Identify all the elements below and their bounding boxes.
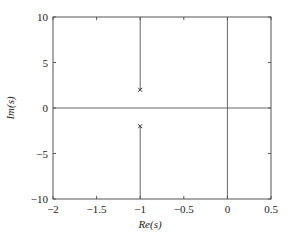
y-tick-label: −5 bbox=[36, 148, 48, 160]
x-tick-label: −1.5 bbox=[87, 203, 107, 215]
y-tick-label: 0 bbox=[43, 102, 49, 114]
root-locus-chart: −2−1.5−1−0.500.5−10−50510 Re(s) Im(s) bbox=[0, 0, 291, 237]
y-axis-label: Im(s) bbox=[4, 96, 17, 121]
x-tick-label: −1 bbox=[134, 203, 146, 215]
x-axis-label: Re(s) bbox=[137, 218, 162, 231]
x-tick-label: −0.5 bbox=[174, 203, 194, 215]
x-tick-label: 0.5 bbox=[264, 203, 278, 215]
axis-tick-labels: −2−1.5−1−0.500.5−10−50510 bbox=[31, 11, 279, 215]
plot-area bbox=[53, 17, 271, 199]
x-tick-label: −2 bbox=[47, 203, 59, 215]
y-tick-label: 10 bbox=[37, 11, 49, 23]
y-tick-label: −10 bbox=[31, 193, 49, 205]
y-tick-label: 5 bbox=[43, 57, 49, 69]
x-tick-label: 0 bbox=[225, 203, 231, 215]
